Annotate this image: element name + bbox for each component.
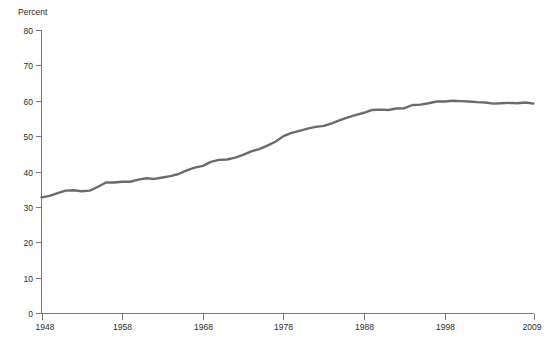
x-tick-label: 1968 [194,322,213,332]
y-tick-label: 0 [28,309,33,319]
x-tick-label: 1988 [355,322,374,332]
y-tick-label: 10 [24,274,34,284]
y-axis-ticks: 01020304050607080 [24,26,42,319]
x-axis-ticks: 1948195819681978198819982009 [36,314,542,333]
y-tick-label: 40 [24,168,34,178]
data-series-group [42,101,534,198]
y-tick-label: 30 [24,203,34,213]
x-tick-label: 1978 [274,322,293,332]
chart-container: Percent 01020304050607080 19481958196819… [0,0,549,343]
y-tick-label: 20 [24,238,34,248]
x-tick-label: 1958 [113,322,132,332]
line-chart: Percent 01020304050607080 19481958196819… [0,0,549,343]
x-tick-label: 1948 [36,322,55,332]
y-axis-title: Percent [18,7,48,17]
y-tick-label: 80 [24,26,34,36]
y-tick-label: 70 [24,61,34,71]
series-line [42,101,534,198]
y-tick-label: 50 [24,132,34,142]
y-tick-label: 60 [24,97,34,107]
x-tick-label: 1998 [436,322,455,332]
x-tick-label: 2009 [523,322,542,332]
